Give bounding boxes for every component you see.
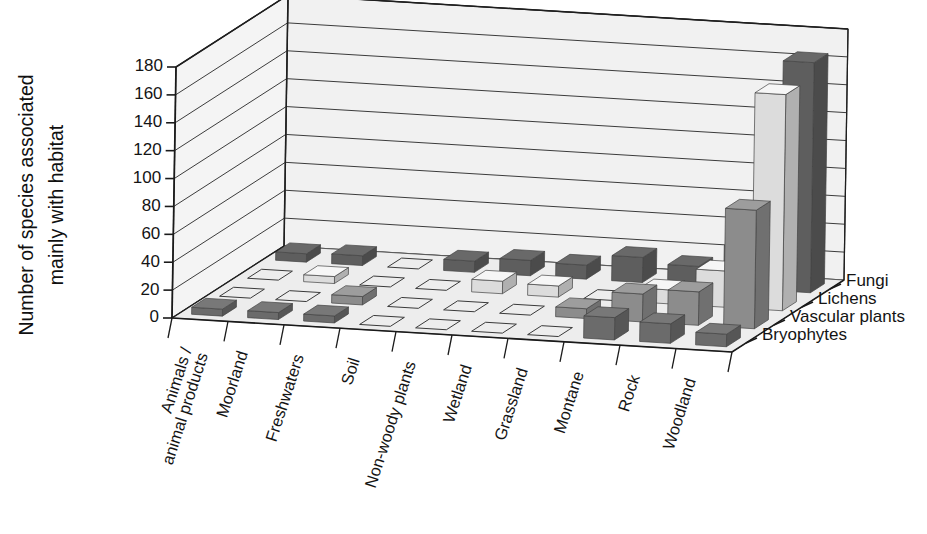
x-axis-tick xyxy=(672,349,676,369)
bar-front-face[interactable] xyxy=(472,279,503,293)
bar-vascular-plants-9[interactable] xyxy=(724,199,771,328)
x-axis-category-label: Wetland xyxy=(439,362,475,425)
x-axis-tick xyxy=(280,325,284,345)
x-axis-category-label-line: Soil xyxy=(337,355,363,387)
legend-label-lichens: Lichens xyxy=(818,289,877,308)
bar-front-face[interactable] xyxy=(640,322,671,343)
x-axis-category-label: Montane xyxy=(550,369,587,436)
legend-label-vascular-plants: Vascular plants xyxy=(790,307,905,326)
x-axis-tick xyxy=(448,335,452,355)
y-axis-tick-label: 180 xyxy=(135,56,163,75)
x-axis-tick xyxy=(616,345,620,365)
x-axis-tick xyxy=(504,338,508,358)
x-axis-category-label-line: Woodland xyxy=(659,376,699,452)
y-axis-tick-label: 0 xyxy=(150,307,159,326)
x-axis-category-label-line: Moorland xyxy=(212,348,250,419)
x-axis-category-label-line: Montane xyxy=(550,369,587,436)
three-d-bar-chart: Number of species associated mainly with… xyxy=(0,0,927,534)
bar-bryophytes-7[interactable] xyxy=(584,307,629,340)
y-axis-tick-label: 40 xyxy=(141,252,160,271)
bar-side-face[interactable] xyxy=(754,201,770,329)
bar-bryophytes-8[interactable] xyxy=(640,313,685,343)
x-axis-category-label-line: Rock xyxy=(614,372,643,414)
x-axis-category-label: Grassland xyxy=(490,365,530,442)
bar-front-face[interactable] xyxy=(444,259,475,272)
y-axis-tick-label: 80 xyxy=(142,196,161,215)
y-axis-tick-label: 60 xyxy=(141,224,160,243)
x-axis-category-label: Animals /animal products xyxy=(142,345,211,467)
x-axis-category-label-line: Wetland xyxy=(439,362,475,425)
bar-front-face[interactable] xyxy=(696,332,727,346)
x-axis-tick xyxy=(168,318,172,338)
legend-label-fungi: Fungi xyxy=(846,271,889,290)
x-axis-tick xyxy=(728,352,732,372)
bar-front-face[interactable] xyxy=(724,208,757,328)
y-axis-tick-label: 140 xyxy=(134,112,162,131)
x-axis-category-label-line: Freshwaters xyxy=(262,352,307,444)
plot-area: 020406080100120140160180Animals /animal … xyxy=(133,0,905,490)
legend-label-bryophytes: Bryophytes xyxy=(762,325,847,344)
x-axis-tick xyxy=(336,328,340,348)
y-axis-title: Number of species associated mainly with… xyxy=(15,74,67,335)
x-axis-category-label: Woodland xyxy=(659,376,699,452)
bar-fungi-6[interactable] xyxy=(612,247,657,283)
bar-front-face[interactable] xyxy=(612,256,643,283)
y-axis-title-line-1: Number of species associated xyxy=(15,74,37,335)
x-axis-category-label: Moorland xyxy=(212,348,250,419)
x-axis-category-label-line: Grassland xyxy=(490,365,530,442)
x-axis-tick xyxy=(560,342,564,362)
y-axis-tick-label: 120 xyxy=(133,140,161,159)
y-axis-tick-label: 100 xyxy=(133,168,161,187)
chart-container: Number of species associated mainly with… xyxy=(0,0,927,534)
x-axis-tick xyxy=(224,321,228,341)
y-axis-tick-label: 20 xyxy=(141,280,160,299)
x-axis-category-label: Rock xyxy=(614,372,643,414)
x-axis-category-label: Freshwaters xyxy=(262,352,307,444)
y-axis-tick-label: 160 xyxy=(134,84,162,103)
x-axis-category-label: Soil xyxy=(337,355,363,387)
x-axis-category-label: Non-woody plants xyxy=(361,359,419,490)
x-axis-tick xyxy=(392,332,396,352)
y-axis-title-line-2: mainly with habitat xyxy=(45,124,67,285)
bar-front-face[interactable] xyxy=(528,284,559,297)
bar-front-face[interactable] xyxy=(584,316,615,340)
x-axis-category-label-line: Non-woody plants xyxy=(361,359,419,490)
